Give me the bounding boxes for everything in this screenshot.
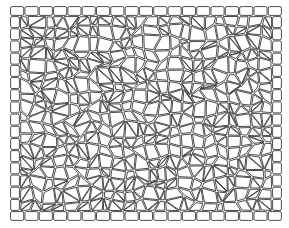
border-block: [54, 7, 67, 16]
cobblestone: [202, 204, 217, 211]
border-block: [139, 7, 152, 16]
border-block: [11, 163, 20, 174]
border-block: [11, 199, 20, 210]
cobblestone: [229, 57, 236, 74]
border-block: [11, 65, 20, 76]
border-block: [11, 41, 20, 52]
border-block: [11, 7, 24, 16]
cobblestone: [29, 59, 46, 73]
cobblestone: [228, 136, 241, 147]
border-block: [39, 7, 52, 16]
border-block: [11, 114, 20, 125]
cobblestone: [111, 169, 126, 179]
border-block: [273, 151, 282, 162]
cobblestone: [237, 17, 248, 27]
border-block: [182, 212, 195, 221]
border-block: [111, 212, 124, 221]
border-block: [168, 7, 181, 16]
border-block: [168, 212, 181, 221]
border-block: [225, 7, 238, 16]
border-block: [11, 90, 20, 101]
border-block: [11, 78, 20, 89]
border-block: [139, 212, 152, 221]
cobblestone: [132, 35, 143, 48]
cobblestone: [157, 167, 165, 181]
border-block: [197, 7, 210, 16]
border-block: [240, 7, 253, 16]
border-block: [273, 53, 282, 64]
border-block: [182, 7, 195, 16]
border-block: [11, 187, 20, 198]
border-block: [211, 7, 224, 16]
border-block: [225, 212, 238, 221]
cobblestone: [235, 114, 251, 127]
border-block: [273, 29, 282, 40]
cobblestone: [169, 144, 181, 156]
border-block: [39, 212, 52, 221]
cobblestone: [133, 90, 146, 103]
border-block: [82, 7, 95, 16]
border-block: [273, 90, 282, 101]
cobblestone-illustration: [0, 0, 289, 228]
border-block: [125, 7, 138, 16]
border-block: [273, 65, 282, 76]
border-block: [11, 175, 20, 186]
border-block: [96, 212, 109, 221]
border-block: [273, 102, 282, 113]
cobblestone: [217, 203, 223, 210]
cobblestone: [206, 100, 217, 116]
border-block: [96, 7, 109, 16]
cobblestone-field: [20, 16, 271, 210]
cobblestone: [194, 71, 205, 84]
border-block: [125, 212, 138, 221]
cobblestone: [143, 101, 159, 115]
border-block: [25, 7, 38, 16]
border-block: [254, 7, 267, 16]
border-block: [273, 187, 282, 198]
border-block: [211, 212, 224, 221]
cobblestone: [169, 135, 180, 146]
border-block: [11, 212, 24, 221]
border-block: [273, 78, 282, 89]
border-block: [273, 126, 282, 137]
cobblestone: [70, 94, 78, 104]
border-block: [68, 7, 81, 16]
border-block: [273, 199, 282, 210]
border-block: [11, 53, 20, 64]
cobblestone: [194, 118, 205, 123]
border-block: [273, 163, 282, 174]
border-block: [11, 126, 20, 137]
cobblestone: [168, 70, 184, 82]
cobblestone: [122, 101, 132, 110]
cobblestone: [259, 37, 271, 51]
border-block: [11, 29, 20, 40]
border-block: [154, 7, 167, 16]
cobblestone: [249, 17, 264, 27]
border-block: [197, 212, 210, 221]
cobblestone: [172, 100, 182, 113]
border-block: [111, 7, 124, 16]
cobblestone: [228, 147, 240, 159]
border-block: [240, 212, 253, 221]
border-block: [11, 102, 20, 113]
cobblestone: [223, 17, 238, 26]
border-block: [154, 212, 167, 221]
border-block: [273, 17, 282, 28]
cobblestone: [156, 71, 168, 81]
cobblestone: [115, 84, 124, 91]
cobblestone: [181, 134, 193, 148]
border-block: [11, 151, 20, 162]
border-block: [11, 17, 20, 28]
border-block: [11, 138, 20, 149]
border-block: [273, 175, 282, 186]
border-block: [273, 114, 282, 125]
border-block: [82, 212, 95, 221]
border-block: [54, 212, 67, 221]
border-block: [268, 7, 281, 16]
border-block: [254, 212, 267, 221]
border-block: [268, 212, 281, 221]
border-block: [25, 212, 38, 221]
cobblestone: [236, 177, 251, 188]
border-block: [68, 212, 81, 221]
cobblestone: [216, 17, 225, 25]
